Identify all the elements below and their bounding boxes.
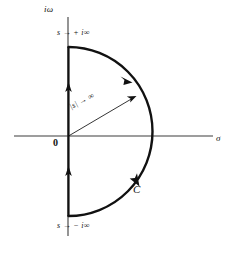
contour-diagram: iω σ 0 s → + i∞ s → − i∞ |s| → ∞ C: [0, 0, 235, 258]
radius-arrowhead: [127, 96, 137, 103]
direction-arrowhead-upper-arc: [121, 77, 133, 86]
lower-endpoint-label: s → − i∞: [57, 222, 90, 230]
origin-label: 0: [53, 138, 58, 148]
real-axis-label: σ: [216, 134, 220, 143]
contour-diagram-canvas: [0, 0, 235, 258]
imaginary-axis-label: iω: [44, 5, 53, 14]
contour-name-label: C: [133, 184, 140, 195]
upper-endpoint-label: s → + i∞: [57, 29, 90, 37]
